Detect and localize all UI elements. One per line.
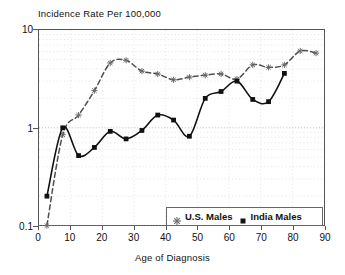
x-axis-tick-mark: [38, 226, 39, 230]
data-point-marker: [219, 89, 224, 94]
x-axis-tick-mark: [70, 226, 71, 230]
x-axis-tick-label: 90: [319, 232, 330, 243]
plot-area: [38, 29, 325, 226]
y-axis-tick-label: 1: [0, 122, 33, 133]
data-series-layer: [39, 30, 324, 226]
data-point-marker: [265, 64, 271, 70]
star-marker-icon: [172, 212, 181, 221]
data-point-marker: [203, 96, 208, 101]
data-point-marker: [44, 223, 50, 229]
y-axis-tick-mark: [33, 128, 38, 129]
data-point-marker: [76, 153, 81, 158]
legend-item-india-males: India Males: [238, 211, 302, 222]
data-point-marker: [171, 118, 176, 123]
data-point-marker: [155, 71, 161, 77]
x-axis-tick-mark: [261, 226, 262, 230]
data-point-marker: [186, 74, 192, 80]
data-point-marker: [170, 77, 176, 83]
x-axis-tick-mark: [134, 226, 135, 230]
series-line-us-males: [47, 50, 316, 225]
data-point-marker: [313, 50, 319, 56]
data-point-marker: [266, 99, 271, 104]
data-point-marker: [250, 97, 255, 102]
x-axis-tick-mark: [166, 226, 167, 230]
x-axis-tick-label: 10: [64, 232, 75, 243]
data-point-marker: [140, 128, 145, 133]
data-point-marker: [107, 60, 113, 66]
data-point-marker: [60, 125, 65, 130]
data-point-marker: [218, 71, 224, 77]
data-point-marker: [250, 62, 256, 68]
series-line-india-males: [47, 73, 284, 196]
x-axis-tick-label: 50: [192, 232, 203, 243]
x-axis-tick-mark: [197, 226, 198, 230]
x-axis-title: Age of Diagnosis: [0, 252, 345, 263]
data-point-marker: [297, 48, 303, 54]
square-marker-icon: [238, 212, 247, 221]
x-axis-tick-mark: [325, 226, 326, 230]
x-axis-tick-mark: [293, 226, 294, 230]
x-axis-tick-label: 80: [288, 232, 299, 243]
y-axis-tick-label: 10: [0, 24, 33, 35]
data-point-marker: [282, 71, 287, 76]
x-axis-tick-mark: [229, 226, 230, 230]
data-point-marker: [235, 79, 240, 84]
data-point-marker: [108, 129, 113, 134]
data-point-marker: [91, 88, 97, 94]
x-axis-tick-mark: [102, 226, 103, 230]
legend-item-us-males: U.S. Males: [172, 211, 233, 222]
figure: Incidence Rate Per 100,000 1010.1 010203…: [0, 0, 345, 275]
x-axis-tick-label: 60: [224, 232, 235, 243]
legend-label-us-males: U.S. Males: [185, 211, 233, 222]
x-axis-tick-label: 0: [35, 232, 41, 243]
data-point-marker: [123, 57, 129, 63]
x-axis-tick-label: 30: [128, 232, 139, 243]
data-point-marker: [76, 112, 82, 118]
legend-label-india-males: India Males: [251, 211, 302, 222]
data-point-marker: [139, 68, 145, 74]
data-point-marker: [45, 194, 50, 199]
data-point-marker: [202, 72, 208, 78]
x-axis-tick-label: 40: [160, 232, 171, 243]
x-axis-tick-label: 20: [96, 232, 107, 243]
data-point-marker: [124, 137, 129, 142]
chart-title: Incidence Rate Per 100,000: [38, 8, 161, 19]
data-point-marker: [155, 113, 160, 118]
data-point-marker: [92, 145, 97, 150]
y-axis-tick-mark: [33, 29, 38, 30]
x-axis-tick-label: 70: [256, 232, 267, 243]
data-point-marker: [187, 134, 192, 139]
data-point-marker: [281, 62, 287, 68]
chart-legend: U.S. Males India Males: [166, 207, 323, 226]
y-axis-tick-label: 0.1: [0, 221, 33, 232]
